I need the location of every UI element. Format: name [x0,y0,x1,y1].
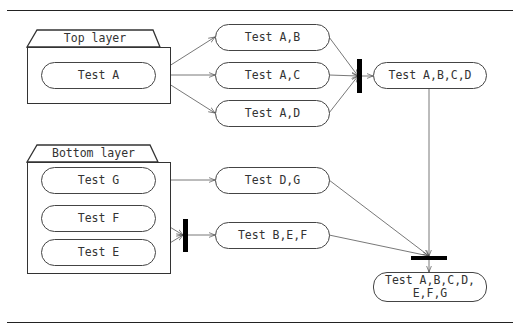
node-test-ab: Test A,B [215,24,330,51]
join-bar-3 [411,256,447,260]
node-test-abcd: Test A,B,C,D [373,62,487,89]
node-test-e: Test E [41,239,156,266]
node-test-ac: Test A,C [215,62,330,89]
node-test-ad: Test A,D [215,100,330,127]
node-test-a: Test A [41,62,156,89]
node-test-bef: Test B,E,F [215,222,330,249]
join-bar-1 [357,59,362,93]
node-test-g: Test G [41,167,156,194]
join-bar-2 [183,219,188,252]
node-test-dg: Test D,G [215,167,330,194]
node-test-f: Test F [41,205,156,232]
top-layer-label: Top layer [37,31,153,45]
bottom-layer-label: Bottom layer [37,146,150,160]
node-test-all: Test A,B,C,D, E,F,G [373,272,487,302]
